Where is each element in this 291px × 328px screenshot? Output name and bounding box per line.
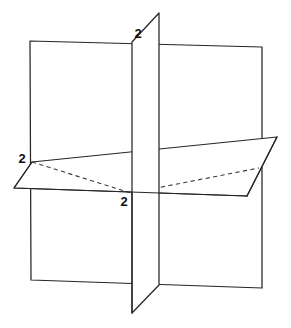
vertical-front-plane — [132, 13, 159, 313]
figure-canvas: 2 2 2 — [0, 0, 291, 328]
dimension-label-center: 2 — [120, 194, 127, 209]
dimension-label-top: 2 — [134, 26, 141, 41]
dimension-label-left: 2 — [18, 151, 25, 166]
geometry-figure: 2 2 2 — [0, 0, 291, 328]
